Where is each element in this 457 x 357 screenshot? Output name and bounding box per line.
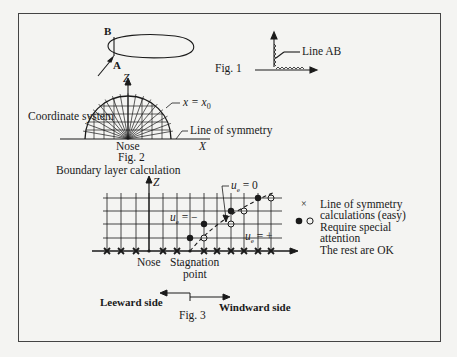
- leeward-side-label: Leeward side: [100, 297, 163, 308]
- x-eq-subscript: 0: [207, 102, 211, 111]
- fig3-nose-label: Nose: [137, 257, 161, 269]
- diagram-figure: B A Line AB Fig. 1 Z x = x0 Coordinate s…: [0, 0, 457, 357]
- x-equals-x0-label: x = x0: [183, 97, 211, 111]
- ue-subscript: e: [176, 218, 179, 226]
- stagnation-label-line1: Stagnation: [170, 257, 219, 269]
- ue-subscript: e: [251, 237, 254, 245]
- point-b-label: B: [104, 26, 111, 37]
- ue-subscript: e: [237, 186, 240, 194]
- boundary-layer-title: Boundary layer calculation: [56, 165, 181, 177]
- fig2-z-axis-label: Z: [123, 73, 129, 85]
- fig3-z-axis-label: Z: [153, 177, 159, 189]
- line-ab-label: Line AB: [302, 46, 341, 58]
- fig2-x-axis-label: X: [199, 141, 206, 153]
- ue-positive-value: = +: [257, 230, 273, 242]
- legend-line3-text: The rest are OK: [320, 245, 394, 257]
- legend-line1-text2: calculations (easy): [320, 210, 406, 222]
- line-of-symmetry-label: Line of symmetry: [190, 125, 272, 137]
- ue-positive-label: ue = +: [245, 231, 273, 245]
- legend-symbols: [296, 218, 313, 225]
- point-a-label: A: [113, 60, 121, 71]
- windward-side-label: Windward side: [219, 302, 291, 313]
- legend-x-symbol: ×: [301, 199, 307, 209]
- ue-negative-label: ue = −: [170, 212, 198, 226]
- fig3-caption: Fig. 3: [179, 310, 206, 322]
- fig1-caption: Fig. 1: [215, 63, 242, 75]
- coordinate-system-label: Coordinate system: [28, 111, 114, 123]
- ue-zero-label: ue = 0: [231, 180, 258, 194]
- stagnation-label-line2: point: [183, 269, 207, 281]
- fig2-caption: Fig. 2: [118, 152, 145, 164]
- x-eq-text: x = x: [183, 96, 207, 108]
- ue-negative-value: = −: [182, 211, 198, 223]
- ue-zero-value: = 0: [243, 179, 258, 191]
- legend-line2-text2: attention: [320, 233, 360, 245]
